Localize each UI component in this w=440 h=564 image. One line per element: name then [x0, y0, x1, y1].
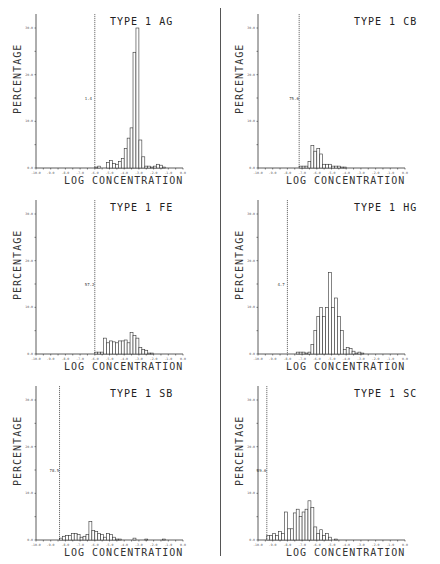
histogram-bar	[136, 338, 139, 354]
histogram-bar	[308, 161, 311, 168]
panel-divider	[220, 8, 221, 556]
x-tick-label: -10.0	[253, 171, 263, 175]
histogram-panel-type-1-fe: 0.010.020.030.0-10.0-9.0-8.0-7.0-6.0-5.0…	[0, 188, 220, 376]
histogram-bar	[71, 533, 74, 540]
histogram-bar	[287, 529, 290, 540]
y-tick-label: 10.0	[25, 119, 33, 123]
histogram-bar	[110, 161, 113, 168]
histogram-bar	[355, 353, 358, 354]
histogram-panel-type-1-sb: 0.010.020.030.0-10.0-9.0-8.0-7.0-6.0-5.0…	[0, 374, 220, 562]
x-tick-label: -9.0	[47, 357, 55, 361]
histogram-bar	[130, 333, 133, 354]
histogram-bar	[121, 159, 124, 168]
y-tick-label: 0.0	[27, 166, 33, 170]
histogram-bar	[86, 534, 89, 540]
x-tick-label: -9.0	[269, 543, 277, 547]
panel-title: TYPE 1 FE	[110, 202, 173, 213]
y-axis-label: PERCENTAGE	[234, 230, 245, 300]
histogram-bars	[95, 333, 154, 354]
y-tick-label: 30.0	[25, 212, 33, 216]
histogram-bar	[136, 28, 139, 168]
histogram-bar	[145, 166, 148, 168]
y-tick-label: 30.0	[25, 398, 33, 402]
histogram-panel-type-1-ag: 0.010.020.030.0-10.0-9.0-8.0-7.0-6.0-5.0…	[0, 2, 220, 190]
histogram-bar	[302, 166, 305, 168]
y-tick-label: 20.0	[25, 259, 33, 263]
histogram-bar	[311, 507, 314, 540]
histogram-bar	[83, 536, 86, 540]
histogram-bar	[314, 331, 317, 354]
histogram-panel-type-1-sc: 0.010.020.030.0-10.0-9.0-8.0-7.0-6.0-5.0…	[222, 374, 440, 562]
histogram-bar	[317, 317, 320, 354]
y-tick-label: 0.0	[249, 352, 255, 356]
histogram-bar	[334, 539, 337, 540]
histogram-bar	[60, 538, 63, 540]
histogram-bar	[154, 166, 157, 168]
histogram-bar	[340, 167, 343, 168]
histogram-bar	[107, 533, 110, 540]
histogram-bar	[314, 527, 317, 540]
histogram-bar	[276, 535, 279, 540]
histogram-bar	[110, 534, 113, 540]
y-tick-label: 30.0	[247, 26, 255, 30]
histogram-bar	[326, 533, 329, 540]
histogram-bar	[305, 509, 308, 540]
panel-title: TYPE 1 SB	[110, 388, 173, 399]
histogram-bar	[323, 317, 326, 354]
histogram-bar	[326, 164, 329, 168]
histogram-bar	[115, 539, 118, 540]
histogram-bars	[299, 146, 346, 168]
histogram-bar	[130, 128, 133, 168]
histogram-bar	[282, 533, 285, 540]
histogram-bar	[308, 352, 311, 354]
panel-title: TYPE 1 AG	[110, 16, 173, 27]
x-axis-label: LOG CONCENTRATION	[286, 361, 405, 372]
histogram-bar	[343, 167, 346, 168]
y-tick-label: 30.0	[247, 398, 255, 402]
histogram-bar	[162, 167, 165, 168]
histogram-bar	[92, 531, 95, 540]
histogram-bar	[104, 338, 107, 354]
histogram-bar	[334, 166, 337, 168]
x-tick-label: -10.0	[31, 171, 41, 175]
histogram-bar	[273, 533, 276, 540]
histogram-bar	[89, 521, 92, 540]
x-axis-label: LOG CONCENTRATION	[286, 175, 405, 186]
histogram-bar	[121, 341, 124, 354]
histogram-bar	[127, 343, 130, 354]
histogram-bar	[320, 154, 323, 168]
x-tick-label: -9.0	[269, 357, 277, 361]
histogram-bar	[112, 163, 115, 168]
histogram-plot: 0.010.020.030.0-10.0-9.0-8.0-7.0-6.0-5.0…	[0, 2, 220, 190]
histogram-bar	[314, 151, 317, 168]
y-tick-label: 20.0	[247, 445, 255, 449]
y-tick-label: 20.0	[25, 445, 33, 449]
histogram-bar	[95, 167, 98, 168]
histogram-bar	[118, 539, 121, 540]
histogram-bar	[296, 509, 299, 540]
histogram-bar	[296, 352, 299, 354]
histogram-bar	[139, 347, 142, 354]
panel-title: TYPE 1 CB	[354, 16, 417, 27]
histogram-bar	[361, 353, 364, 354]
histogram-bar	[299, 166, 302, 168]
histogram-bar	[326, 307, 329, 354]
y-tick-label: 20.0	[247, 73, 255, 77]
histogram-bar	[142, 157, 145, 168]
histogram-bar	[104, 537, 107, 540]
panel-title: TYPE 1 SC	[354, 388, 417, 399]
y-tick-label: 10.0	[247, 119, 255, 123]
detection-limit-annotation: 78.5	[50, 468, 60, 473]
histogram-bar	[98, 166, 101, 168]
detection-limit-annotation: 57.2	[85, 282, 95, 287]
histogram-bar	[358, 352, 361, 354]
histogram-bar	[302, 512, 305, 540]
histogram-bar	[279, 532, 282, 540]
histogram-bar	[145, 539, 148, 540]
histogram-bar	[80, 537, 83, 540]
y-tick-label: 10.0	[25, 305, 33, 309]
histogram-bar	[107, 343, 110, 354]
y-tick-label: 10.0	[247, 305, 255, 309]
histogram-bar	[299, 352, 302, 354]
histogram-bar	[320, 530, 323, 540]
